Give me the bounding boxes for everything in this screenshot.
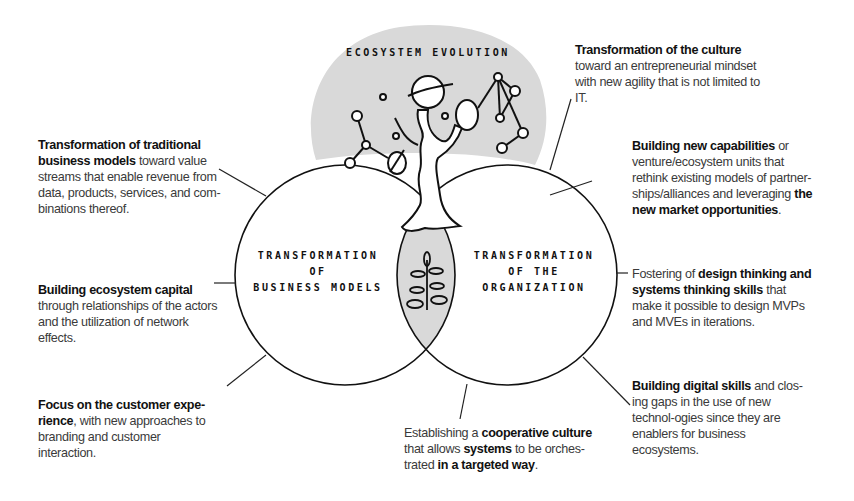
ecosystem-evolution-label: ECOSYSTEM EVOLUTION (346, 47, 510, 58)
note-customer-experience: Focus on the customer expe-rience, with … (38, 397, 218, 461)
note-business-models: Transformation of traditional business m… (38, 137, 226, 217)
note-culture: Transformation of the culture toward an … (575, 42, 760, 106)
right-circle-label-1: TRANSFORMATION (474, 250, 595, 261)
note-capabilities: Building new capabilities or venture/eco… (632, 138, 814, 218)
note-cooperative: Establishing a cooperative culture that … (404, 425, 599, 473)
right-circle-label-3: ORGANIZATION (482, 282, 585, 293)
note-digital-skills: Building digital skills and clos-ing gap… (632, 378, 812, 458)
left-circle-label-3: BUSINESS MODELS (253, 282, 382, 293)
left-circle-label-1: TRANSFORMATION (258, 250, 379, 261)
right-circle-label-2: OF THE (508, 266, 560, 277)
note-design-thinking: Fostering of design thinking and systems… (632, 266, 812, 330)
left-circle-label-2: OF (309, 266, 326, 277)
note-ecosystem-capital: Building ecosystem capital through relat… (38, 282, 218, 346)
